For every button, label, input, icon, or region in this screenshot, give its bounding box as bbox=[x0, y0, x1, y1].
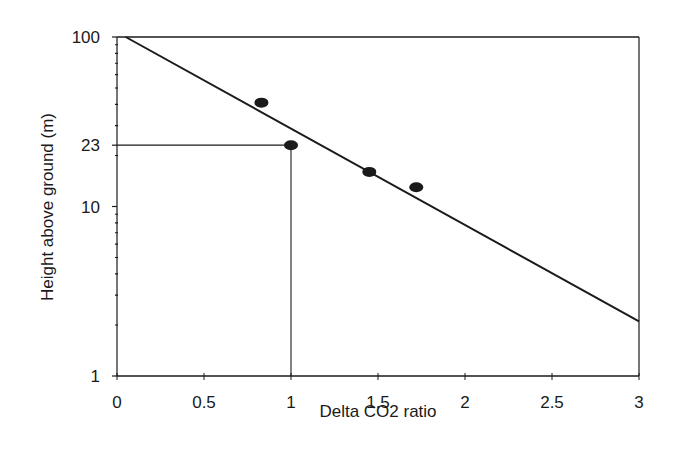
x-tick-label: 0.5 bbox=[192, 393, 216, 412]
y-axis-ticks: 11023100 bbox=[72, 28, 117, 386]
data-point-marker bbox=[362, 167, 376, 177]
x-tick-label: 3 bbox=[634, 393, 643, 412]
chart-canvas: 00.511.522.53 11023100 Delta CO2 ratio H… bbox=[0, 0, 674, 455]
y-tick-label: 10 bbox=[81, 198, 100, 217]
y-axis-title: Height above ground (m) bbox=[38, 113, 57, 301]
x-tick-label: 1 bbox=[286, 393, 295, 412]
x-tick-label: 2.5 bbox=[540, 393, 564, 412]
fitted-line bbox=[126, 37, 639, 321]
data-point-marker bbox=[254, 98, 268, 108]
data-point-marker bbox=[284, 140, 298, 150]
y-tick-label: 100 bbox=[72, 28, 100, 47]
x-axis-title: Delta CO2 ratio bbox=[319, 402, 436, 421]
reference-lines bbox=[117, 145, 291, 376]
y-tick-label: 1 bbox=[91, 367, 100, 386]
y-tick-label: 23 bbox=[81, 136, 100, 155]
plot-frame bbox=[117, 37, 639, 376]
regression-line bbox=[126, 37, 639, 321]
data-point-marker bbox=[409, 182, 423, 192]
x-tick-label: 2 bbox=[460, 393, 469, 412]
x-tick-label: 0 bbox=[112, 393, 121, 412]
